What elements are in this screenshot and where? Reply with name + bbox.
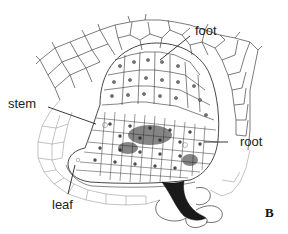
dark-stipple <box>118 125 198 166</box>
label-stem: stem <box>8 97 36 110</box>
foot-leader <box>160 36 190 60</box>
label-root: root <box>240 135 262 148</box>
label-leaf: leaf <box>52 198 73 211</box>
label-foot: foot <box>195 24 217 37</box>
stem-leader <box>48 107 96 124</box>
embryo-outline <box>66 43 219 187</box>
meristem-cells <box>76 112 217 182</box>
embryo-diagram <box>0 0 288 234</box>
panel-letter: B <box>265 206 274 219</box>
foot-cells <box>102 52 214 120</box>
dark-stalk <box>162 181 206 220</box>
